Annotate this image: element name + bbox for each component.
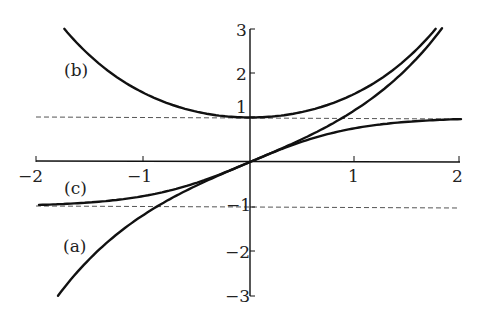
x-tick-label: 2: [452, 166, 463, 186]
y-tick-label: 2: [236, 64, 247, 84]
curve-label-b: (b): [64, 60, 88, 80]
curve-label-c: (c): [64, 178, 87, 198]
x-tick-label: −1: [127, 166, 152, 186]
y-tick-label: 3: [236, 20, 247, 40]
curve-label-a: (a): [63, 236, 86, 256]
x-tick-label: −2: [18, 166, 43, 186]
y-tick-label: −2: [225, 242, 250, 262]
y-tick-label: −3: [225, 286, 250, 306]
x-axis: [36, 156, 460, 162]
x-tick-label: 1: [348, 166, 359, 186]
y-tick-label: −1: [226, 195, 251, 215]
y-tick-label: 1: [236, 97, 247, 117]
hyperbolic-functions-chart: −2 −1 1 2 3 2 1 −1 −2 −3 (b) (c) (a): [0, 0, 488, 325]
